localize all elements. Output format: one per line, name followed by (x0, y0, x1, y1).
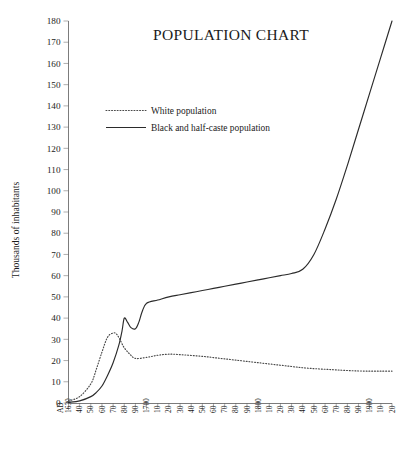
y-tick-label: 60 (51, 271, 61, 281)
series-line-black-population (69, 21, 393, 402)
y-tick-label: 20 (51, 356, 61, 366)
y-axis: 0102030405060708090100110120130140150160… (47, 16, 69, 408)
x-tick-label: 70 (109, 405, 118, 413)
y-tick-label: 50 (51, 292, 61, 302)
x-tick-label: 40 (298, 405, 307, 413)
x-tick-label: 90 (243, 405, 252, 413)
y-tick-label: 150 (47, 80, 61, 90)
x-axis: 1630AD4050607080901700102030405060708090… (56, 398, 397, 413)
x-tick-label: 1800 (254, 398, 263, 413)
x-tick-label: 10 (265, 405, 274, 413)
x-tick-label: 70 (332, 405, 341, 413)
y-tick-label: 140 (47, 101, 61, 111)
x-tick-label: 50 (86, 405, 95, 413)
population-chart: POPULATION CHART Thousands of inhabitant… (0, 0, 403, 461)
x-tick-label: 80 (231, 405, 240, 413)
y-tick-label: 40 (51, 313, 61, 323)
chart-legend: White population Black and half-caste po… (106, 106, 270, 133)
x-tick-label: 20 (276, 405, 285, 413)
y-tick-label: 100 (47, 186, 61, 196)
x-tick-label: 1700 (142, 398, 151, 413)
x-tick-label: 80 (343, 405, 352, 413)
legend-label-black-population: Black and half-caste population (151, 123, 270, 133)
y-tick-label: 160 (47, 59, 61, 69)
x-tick-label: 60 (98, 405, 107, 413)
x-tick-label: 40 (75, 405, 84, 413)
y-tick-label: 10 (51, 377, 61, 387)
x-tick-label: 90 (354, 405, 363, 413)
chart-title: POPULATION CHART (153, 26, 309, 43)
x-tick-label: 70 (220, 405, 229, 413)
x-tick-label: 10 (153, 405, 162, 413)
x-tick-label: 60 (209, 405, 218, 413)
x-tick-label: 20 (164, 405, 173, 413)
chart-canvas: POPULATION CHART Thousands of inhabitant… (0, 0, 403, 461)
x-tick-label: 1900 (365, 398, 374, 413)
y-tick-label: 180 (47, 16, 61, 26)
x-tick-label: 50 (198, 405, 207, 413)
x-tick-label: 10 (376, 405, 385, 413)
y-tick-label: 110 (47, 165, 61, 175)
legend-label-white-population: White population (151, 106, 217, 116)
y-tick-label: 170 (47, 37, 61, 47)
series-line-white-population (69, 333, 393, 401)
x-tick-label: 30 (176, 405, 185, 413)
y-tick-label: 130 (47, 122, 61, 132)
x-tick-label: 50 (310, 405, 319, 413)
y-tick-label: 120 (47, 144, 61, 154)
x-tick-label-prefix: AD (56, 402, 65, 413)
series-lines (69, 21, 393, 402)
y-tick-label: 70 (51, 250, 61, 260)
x-tick-label: 90 (131, 405, 140, 413)
y-tick-label: 30 (51, 335, 61, 345)
x-tick-label: 20 (388, 405, 397, 413)
y-tick-label: 80 (51, 228, 61, 238)
y-axis-title: Thousands of inhabitants (10, 182, 21, 279)
x-tick-label: 60 (321, 405, 330, 413)
x-tick-label: 80 (120, 405, 129, 413)
y-tick-label: 90 (51, 207, 61, 217)
x-tick-label: 30 (287, 405, 296, 413)
x-tick-label: 40 (187, 405, 196, 413)
